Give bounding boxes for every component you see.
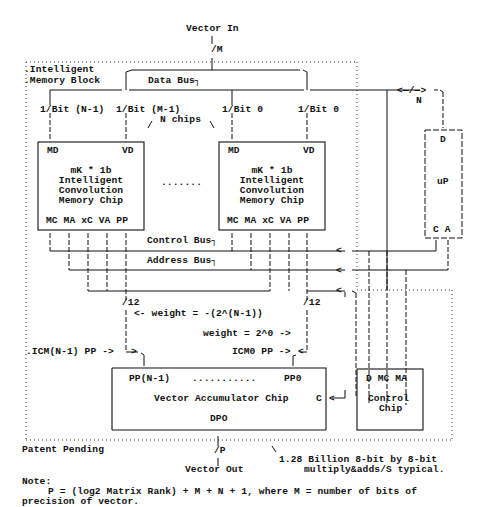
icm-lsb-arrow: <	[298, 346, 304, 357]
acc-c-arrow: <	[329, 393, 335, 404]
perf-line-2: multiply&adds/S typical.	[304, 464, 445, 475]
uP-ca: C A	[433, 224, 451, 235]
control-bus-arrow: <	[336, 245, 342, 256]
vector-in-width: /M	[211, 44, 223, 55]
address-bus-label: Address Bus┐	[147, 255, 217, 266]
chip-right-title-4: Memory Chip	[219, 195, 325, 206]
weight-msb: <- weight = -(2^(N-1))	[134, 308, 263, 319]
acc-control-pin: C	[316, 393, 322, 404]
control-chip-name-2: Chip	[379, 403, 402, 414]
patent-label: Patent Pending	[22, 444, 104, 455]
chip-left-md: MD	[47, 145, 59, 156]
control-bus-label: Control Bus┐	[147, 235, 217, 246]
icm-lsb-label: ICM0 PP ->	[232, 346, 291, 357]
chip-right-md: MD	[228, 145, 240, 156]
bit-label-0b: 1/Bit 0	[298, 104, 339, 115]
acc-pp-msb: PP(N-1)	[129, 373, 170, 384]
pp-width-left: /12	[122, 297, 140, 308]
icm-msb-label: .ICM(N-1) PP ->	[26, 346, 114, 357]
chip-right-pins: MC MA xC VA PP	[227, 215, 309, 226]
n-chips-label: N chips	[160, 114, 201, 125]
memory-block-label-2: .Memory Block	[24, 75, 100, 86]
weight-lsb: weight = 2^0 ->	[203, 328, 291, 339]
pp-bus-arrow: <	[336, 285, 342, 296]
acc-pp-lsb: PP0	[284, 373, 302, 384]
acc-output: DPO	[210, 413, 228, 424]
chip-left-title-4: Memory Chip	[38, 195, 144, 206]
acc-name: Vector Accumulator Chip	[154, 393, 289, 404]
pp-width-right: /12	[303, 297, 321, 308]
icm-msb-arrow: >	[131, 346, 137, 357]
address-bus-arrow: <	[336, 265, 342, 276]
chip-left-vd: VD	[122, 145, 134, 156]
uP-link-width: N	[416, 95, 422, 106]
control-chip-pins: D MC MA	[366, 373, 407, 384]
vector-out-label: Vector Out	[185, 464, 244, 475]
bit-label-n1: 1/Bit (N-1)	[40, 104, 104, 115]
uP-name: uP	[437, 176, 449, 187]
chip-left-pins: MC MA xC VA PP	[46, 215, 128, 226]
chip-ellipsis: .......	[161, 177, 202, 188]
note-line-2: precision of vector.	[22, 496, 139, 507]
chip-right-vd: VD	[303, 145, 315, 156]
bit-label-0a: 1/Bit 0	[222, 104, 263, 115]
vector-out-width: /P	[214, 445, 226, 456]
vector-in-label: Vector In	[186, 23, 239, 34]
memory-block-label-1: .Intelligent	[24, 64, 94, 75]
data-bus-label: Data Bus┐	[148, 75, 201, 86]
note-title: Note:	[22, 476, 51, 487]
uP-d: D	[440, 134, 446, 145]
acc-dots: ...........	[192, 373, 256, 384]
